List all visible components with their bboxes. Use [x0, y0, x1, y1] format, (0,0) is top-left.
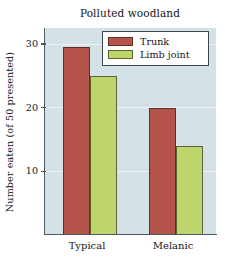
bar-melanic-trunk	[149, 108, 176, 235]
chart-title: Polluted woodland	[44, 7, 216, 20]
x-axis-label-typical: Typical	[47, 239, 127, 252]
bar-typical-limb-joint	[90, 76, 117, 235]
bar-typical-trunk	[63, 47, 90, 235]
legend-swatch-limb-joint-icon	[108, 50, 133, 59]
tick-mark	[41, 171, 46, 172]
y-axis-label: Number eaten (of 50 presented)	[4, 51, 15, 211]
y-axis-label-container: Number eaten (of 50 presented)	[0, 28, 18, 235]
legend-item-trunk: Trunk	[108, 35, 203, 48]
legend-item-limb-joint: Limb joint	[108, 48, 203, 61]
y-axis-tick-label: 20	[26, 101, 38, 114]
chart-figure: Polluted woodland Number eaten (of 50 pr…	[0, 0, 225, 265]
chart-legend: Trunk Limb joint	[102, 31, 209, 66]
legend-label-limb-joint: Limb joint	[140, 49, 190, 61]
y-axis-tick-label: 30	[26, 37, 38, 50]
y-axis-tick-label: 10	[26, 164, 38, 177]
x-axis-label-melanic: Melanic	[133, 239, 213, 252]
legend-swatch-trunk-icon	[108, 37, 133, 46]
tick-mark	[41, 43, 46, 44]
x-axis-line	[44, 234, 217, 235]
tick-mark	[41, 107, 46, 108]
bar-melanic-limb-joint	[176, 146, 203, 235]
legend-label-trunk: Trunk	[140, 36, 169, 48]
